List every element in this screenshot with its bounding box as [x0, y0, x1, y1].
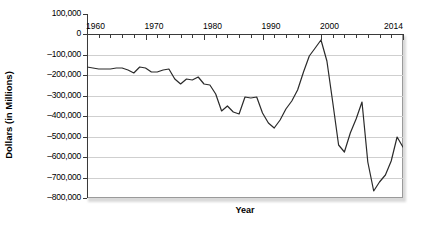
y-tick-label: –600,000 — [47, 151, 81, 161]
y-tick-mark — [83, 116, 87, 117]
y-tick-mark — [83, 137, 87, 138]
y-tick-label: 100,000 — [52, 8, 81, 18]
y-tick-label: –200,000 — [47, 69, 81, 79]
y-tick-label: 0 — [76, 28, 81, 38]
y-tick-mark — [83, 198, 87, 199]
y-tick-mark — [83, 75, 87, 76]
y-tick-label: –700,000 — [47, 172, 81, 182]
y-tick-mark — [83, 96, 87, 97]
y-tick-mark — [83, 55, 87, 56]
y-axis-ticks: 100,0000–100,000–200,000–300,000–400,000… — [0, 0, 440, 231]
y-tick-label: –800,000 — [47, 192, 81, 202]
y-tick-mark — [83, 157, 87, 158]
chart-figure: 100,0000–100,000–200,000–300,000–400,000… — [0, 0, 440, 231]
y-tick-mark — [83, 178, 87, 179]
y-tick-mark — [83, 34, 87, 35]
y-tick-label: –300,000 — [47, 90, 81, 100]
y-tick-mark — [83, 14, 87, 15]
y-tick-label: –500,000 — [47, 131, 81, 141]
y-tick-label: –400,000 — [47, 110, 81, 120]
y-tick-label: –100,000 — [47, 49, 81, 59]
